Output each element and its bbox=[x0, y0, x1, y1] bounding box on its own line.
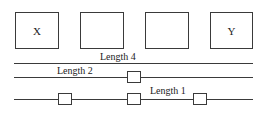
box-2 bbox=[80, 12, 124, 49]
length-4-line bbox=[14, 63, 253, 64]
box-y-label: Y bbox=[228, 25, 236, 37]
length-1-label: Length 1 bbox=[150, 86, 186, 96]
box-3 bbox=[145, 12, 189, 49]
length-1-block-left bbox=[58, 93, 72, 105]
box-x-label: X bbox=[33, 25, 41, 37]
length-2-label: Length 2 bbox=[57, 66, 93, 76]
box-y: Y bbox=[210, 12, 253, 49]
length-4-label: Length 4 bbox=[100, 52, 136, 62]
length-2-block bbox=[127, 71, 141, 83]
length-1-block-right bbox=[193, 93, 207, 105]
length-1-block-middle bbox=[127, 93, 141, 105]
box-x: X bbox=[15, 12, 59, 49]
